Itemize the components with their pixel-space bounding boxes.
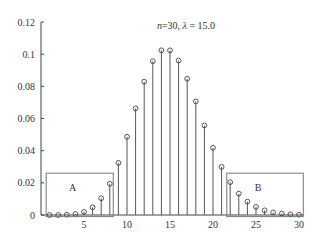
chart-title: n=30, λ = 15.0 bbox=[157, 20, 215, 31]
x-tick-label: 20 bbox=[208, 219, 218, 230]
x-tick-label: 15 bbox=[165, 219, 175, 230]
x-tick-label: 25 bbox=[251, 219, 261, 230]
y-tick-label: 0.04 bbox=[18, 145, 36, 156]
x-tick-label: 5 bbox=[82, 219, 87, 230]
y-tick-label: 0.02 bbox=[18, 177, 36, 188]
x-tick-label: 10 bbox=[122, 219, 132, 230]
y-tick-label: 0.06 bbox=[18, 113, 36, 124]
annotation-box-b bbox=[227, 173, 304, 216]
axes: 00.020.040.060.080.10.1251015202530 bbox=[18, 17, 305, 231]
y-tick-label: 0.08 bbox=[18, 81, 36, 92]
y-tick-label: 0.12 bbox=[18, 17, 36, 28]
annotation-label-b: B bbox=[255, 182, 262, 193]
y-tick-label: 0.1 bbox=[23, 49, 36, 60]
chart-svg: 00.020.040.060.080.10.1251015202530 AB n… bbox=[0, 0, 325, 243]
annotation-label-a: A bbox=[69, 182, 77, 193]
poisson-stem-chart: 00.020.040.060.080.10.1251015202530 AB n… bbox=[0, 0, 325, 243]
stems bbox=[47, 48, 301, 217]
y-tick-label: 0 bbox=[30, 210, 35, 221]
x-tick-label: 30 bbox=[294, 219, 304, 230]
annotation-box-a bbox=[46, 173, 113, 216]
